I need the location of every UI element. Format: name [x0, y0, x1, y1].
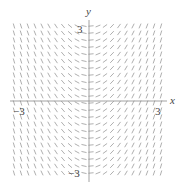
slope-segment	[55, 101, 58, 105]
slope-segment	[81, 123, 86, 124]
slope-segment	[61, 31, 64, 35]
slope-segment	[139, 122, 141, 127]
slope-segment	[96, 172, 101, 174]
slope-segment	[146, 66, 148, 71]
slope-segment	[160, 150, 162, 155]
slope-segment	[160, 171, 162, 176]
slope-segment	[68, 115, 72, 118]
slope-segment	[75, 116, 80, 118]
slope-segment	[96, 165, 101, 167]
slope-segment	[75, 137, 80, 139]
slope-segment	[139, 31, 141, 36]
slope-segment	[20, 73, 22, 78]
slope-segment	[20, 171, 22, 176]
slope-segment	[81, 144, 86, 145]
slope-segment	[48, 80, 51, 85]
slope-segment	[110, 157, 114, 161]
slope-segment	[117, 87, 120, 91]
slope-segment	[27, 129, 29, 134]
slope-segment	[153, 164, 155, 169]
slope-segment	[110, 73, 114, 77]
slope-segment	[55, 94, 58, 98]
slope-segment	[34, 115, 36, 120]
slope-segment	[81, 109, 86, 110]
slope-segment	[75, 102, 80, 104]
slope-segment	[75, 46, 80, 48]
slope-segment	[13, 150, 14, 155]
slope-segment	[125, 66, 128, 70]
slope-segment	[68, 129, 72, 132]
slope-segment	[20, 150, 22, 155]
slope-segment	[146, 87, 148, 92]
slope-segment	[55, 108, 58, 112]
slope-segment	[96, 95, 101, 97]
slope-segment	[13, 171, 14, 176]
slope-segment	[132, 52, 134, 57]
slope-segment	[68, 24, 72, 27]
slope-segment	[110, 38, 114, 42]
slope-segment	[103, 59, 107, 62]
slope-segment	[41, 122, 43, 127]
slope-segment	[27, 94, 29, 99]
slope-segment	[160, 122, 162, 127]
slope-segment	[75, 130, 80, 132]
slope-segment	[55, 24, 58, 28]
slope-segment	[132, 157, 134, 162]
slope-segment	[103, 136, 107, 139]
slope-segment	[81, 165, 86, 166]
slope-segment	[75, 144, 80, 146]
slope-segment	[96, 81, 101, 83]
slope-segment	[125, 157, 128, 161]
slope-segment	[125, 80, 128, 84]
slope-segment	[117, 73, 120, 77]
slope-segment	[81, 53, 86, 54]
slope-segment	[61, 45, 64, 49]
slope-segment	[103, 24, 107, 27]
slope-segment	[125, 87, 128, 91]
slope-segment	[34, 108, 36, 113]
slope-segment	[125, 129, 128, 133]
slope-segment	[34, 31, 36, 36]
slope-segment	[55, 38, 58, 42]
slope-segment	[48, 171, 51, 176]
slope-segment	[61, 115, 64, 119]
slope-segment	[110, 122, 114, 126]
slope-segment	[13, 143, 14, 148]
slope-segment	[61, 136, 64, 140]
slope-segment	[110, 24, 114, 28]
slope-segment	[103, 143, 107, 146]
slope-segment	[48, 101, 51, 106]
slope-segment	[41, 59, 43, 64]
slope-segment	[96, 39, 101, 41]
slope-segment	[110, 52, 114, 56]
y-tick-3: 3	[77, 24, 83, 35]
slope-segment	[13, 122, 14, 127]
slope-segment	[139, 129, 141, 134]
slope-segment	[34, 45, 36, 50]
slope-segment	[68, 45, 72, 48]
slope-segment	[55, 52, 58, 56]
slope-segment	[55, 80, 58, 84]
slope-segment	[61, 52, 64, 56]
slope-segment	[96, 53, 101, 55]
slope-segment	[110, 164, 114, 168]
slope-segment	[153, 59, 155, 64]
slope-segment	[139, 87, 141, 92]
slope-segment	[132, 73, 134, 78]
slope-segment	[27, 87, 29, 92]
slope-segment	[68, 59, 72, 62]
slope-segment	[61, 24, 64, 28]
slope-segment	[153, 31, 155, 36]
slope-segment	[103, 38, 107, 41]
slope-segment	[146, 171, 148, 176]
slope-segment	[153, 38, 155, 43]
slope-segment	[48, 157, 51, 162]
slope-segment	[13, 164, 14, 169]
slope-segment	[20, 129, 22, 134]
slope-segment	[132, 171, 134, 176]
slope-segment	[132, 143, 134, 148]
slope-segment	[160, 24, 162, 29]
slope-segment	[75, 158, 80, 160]
slope-segment	[117, 94, 120, 98]
slope-segment	[96, 144, 101, 146]
